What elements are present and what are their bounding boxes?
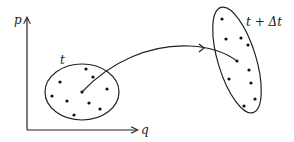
final-time-label: t + Δt — [246, 15, 282, 29]
phase-point — [239, 36, 242, 39]
phase-point — [84, 67, 87, 70]
phase-point — [247, 68, 250, 71]
phase-point — [249, 81, 252, 84]
phase-point — [58, 80, 61, 83]
phase-point — [72, 113, 75, 116]
p-axis-label: p — [14, 13, 22, 27]
trajectory-arrowhead-icon — [199, 44, 204, 52]
phase-point — [98, 107, 101, 110]
phase-point — [227, 77, 230, 80]
trajectory-curve — [82, 46, 237, 92]
phase-point — [253, 97, 256, 100]
phase-point — [246, 43, 249, 46]
axes: p q — [14, 13, 149, 137]
phase-point — [50, 94, 53, 97]
phase-point — [242, 104, 245, 107]
phase-point — [91, 75, 94, 78]
phase-space-diagram: p q t t + Δt — [0, 0, 294, 142]
phase-point — [224, 37, 227, 40]
trajectory — [82, 44, 237, 92]
initial-region-dots — [50, 67, 108, 116]
q-axis-label: q — [141, 123, 149, 137]
final-region-dots — [220, 17, 256, 107]
phase-point — [220, 17, 223, 20]
phase-point — [105, 87, 108, 90]
initial-region: t — [45, 53, 119, 120]
initial-time-label: t — [60, 53, 65, 67]
final-region: t + Δt — [203, 2, 282, 118]
phase-point — [65, 99, 68, 102]
phase-point — [87, 101, 90, 104]
